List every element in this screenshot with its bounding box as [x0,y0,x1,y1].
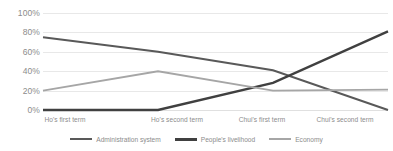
legend-item-peoples-livelihood[interactable]: People's livelihood [175,135,255,144]
gridline-40 [43,71,388,72]
legend-swatch-icon [70,138,92,140]
chart-legend: Administration system People's livelihoo… [0,131,393,147]
plot-area [43,13,388,110]
y-axis: 100% 80% 60% 40% 20% 0% [0,6,40,118]
gridline-60 [43,52,388,53]
gridline-80 [43,32,388,33]
legend-swatch-icon [175,138,197,141]
line-chart: 100% 80% 60% 40% 20% 0% Ho's first term … [0,0,393,151]
y-axis-tick: 60% [0,47,40,57]
x-axis-tick: Ho's first term [3,115,127,124]
legend-label: Economy [295,135,323,144]
legend-label: Administration system [96,135,161,144]
y-axis-tick: 100% [0,8,40,18]
x-axis: Ho's first term Ho's second term Chui's … [43,115,388,127]
gridline-20 [43,91,388,92]
y-axis-tick: 80% [0,27,40,37]
legend-swatch-icon [269,138,291,140]
legend-item-economy[interactable]: Economy [269,135,323,144]
x-axis-tick: Chui's second term [283,115,393,124]
y-axis-tick: 40% [0,66,40,76]
legend-label: People's livelihood [201,135,255,144]
y-axis-tick: 0% [0,105,40,115]
gridline-0 [43,110,388,111]
legend-item-administration-system[interactable]: Administration system [70,135,161,144]
gridline-100 [43,13,388,14]
y-axis-tick: 20% [0,86,40,96]
